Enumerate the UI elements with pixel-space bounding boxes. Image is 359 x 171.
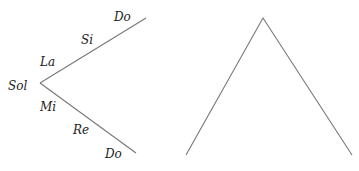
diagram-canvas: Sol La Si Do Mi Re Do xyxy=(0,0,359,171)
label-la: La xyxy=(39,55,55,69)
inverted-v-diagram xyxy=(186,18,352,155)
label-sol: Sol xyxy=(8,79,27,93)
label-re: Re xyxy=(72,123,89,137)
inverted-v-shape xyxy=(186,18,352,155)
scale-branch-diagram: Sol La Si Do Mi Re Do xyxy=(8,10,146,161)
ascending-line xyxy=(40,18,146,83)
label-si: Si xyxy=(81,33,93,47)
label-do-upper: Do xyxy=(113,10,131,24)
label-mi: Mi xyxy=(39,100,56,114)
descending-line xyxy=(40,83,136,153)
label-do-lower: Do xyxy=(104,147,122,161)
